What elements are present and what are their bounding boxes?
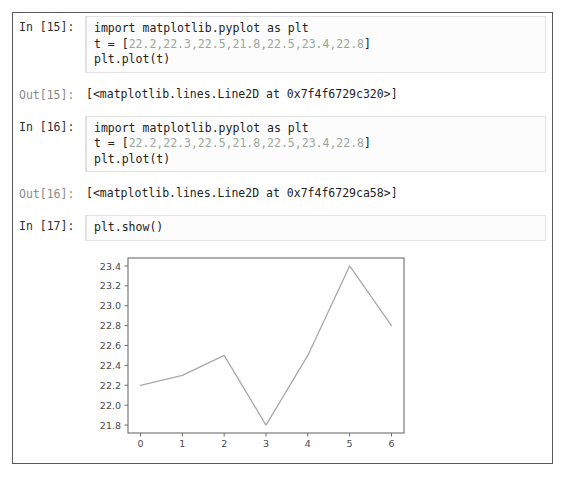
y-axis-tick-label: 22.6	[100, 340, 121, 351]
output-line: [<matplotlib.lines.Line2D at 0x7f4f6729c…	[86, 87, 546, 102]
code-editor-area[interactable]: plt.show()	[85, 215, 546, 241]
y-axis-tick-label: 22.2	[100, 379, 121, 390]
code-token-numbers: 22.2,22.3,22.5,21.8,22.5,23.4,22.8	[129, 37, 364, 51]
code-editor-area[interactable]: import matplotlib.pyplot as plt t = [22.…	[85, 16, 546, 73]
x-axis-tick-label: 3	[263, 438, 269, 449]
code-line: plt.show()	[94, 220, 539, 236]
notebook-cell-figure-output: 21.822.022.222.422.622.823.023.223.40123…	[13, 244, 552, 465]
code-token-bracket: ]	[364, 37, 371, 51]
code-token-assign: t = [	[94, 136, 129, 150]
y-axis-tick-label: 22.0	[100, 399, 121, 410]
matplotlib-figure: 21.822.022.222.422.622.823.023.223.40123…	[13, 250, 553, 465]
notebook-container: In [15]: import matplotlib.pyplot as plt…	[12, 12, 553, 464]
code-line: plt.plot(t)	[94, 152, 539, 168]
y-axis-tick-label: 23.2	[100, 280, 121, 291]
cell-prompt-out-16: Out[16]:	[13, 180, 85, 202]
code-line: plt.plot(t)	[94, 52, 539, 68]
output-text-area: [<matplotlib.lines.Line2D at 0x7f4f6729c…	[85, 81, 552, 108]
cell-prompt-in-17: In [17]:	[13, 212, 85, 234]
code-line: import matplotlib.pyplot as plt	[94, 21, 539, 37]
code-line: t = [22.2,22.3,22.5,21.8,22.5,23.4,22.8]	[94, 136, 539, 152]
y-axis-tick-label: 22.4	[100, 359, 121, 370]
y-axis-tick-label: 22.8	[100, 320, 121, 331]
x-axis-tick-label: 5	[347, 438, 353, 449]
y-axis-tick-label: 21.8	[100, 419, 121, 430]
code-editor-area[interactable]: import matplotlib.pyplot as plt t = [22.…	[85, 116, 546, 173]
notebook-cell-output: Out[15]: [<matplotlib.lines.Line2D at 0x…	[13, 81, 552, 108]
cell-prompt-in-15: In [15]:	[13, 13, 85, 35]
code-token-numbers: 22.2,22.3,22.5,21.8,22.5,23.4,22.8	[129, 136, 364, 150]
cell-prompt-in-16: In [16]:	[13, 113, 85, 135]
notebook-cell-input[interactable]: In [15]: import matplotlib.pyplot as plt…	[13, 13, 552, 76]
output-line: [<matplotlib.lines.Line2D at 0x7f4f6729c…	[86, 186, 546, 201]
notebook-cell-input[interactable]: In [17]: plt.show()	[13, 212, 552, 244]
x-axis-tick-label: 0	[138, 438, 144, 449]
notebook-cell-input[interactable]: In [16]: import matplotlib.pyplot as plt…	[13, 113, 552, 176]
x-axis-tick-label: 1	[179, 438, 185, 449]
output-text-area: [<matplotlib.lines.Line2D at 0x7f4f6729c…	[85, 180, 552, 207]
y-axis-tick-label: 23.0	[100, 300, 121, 311]
code-line: import matplotlib.pyplot as plt	[94, 121, 539, 137]
x-axis-tick-label: 4	[305, 438, 311, 449]
x-axis-tick-label: 6	[388, 438, 394, 449]
line-chart: 21.822.022.222.422.622.823.023.223.40123…	[13, 250, 553, 465]
x-axis-tick-label: 2	[221, 438, 227, 449]
code-token-bracket: ]	[364, 136, 371, 150]
notebook-cell-output: Out[16]: [<matplotlib.lines.Line2D at 0x…	[13, 180, 552, 207]
y-axis-tick-label: 23.4	[100, 260, 121, 271]
code-line: t = [22.2,22.3,22.5,21.8,22.5,23.4,22.8]	[94, 37, 539, 53]
cell-prompt-out-15: Out[15]:	[13, 81, 85, 103]
code-token-assign: t = [	[94, 37, 129, 51]
